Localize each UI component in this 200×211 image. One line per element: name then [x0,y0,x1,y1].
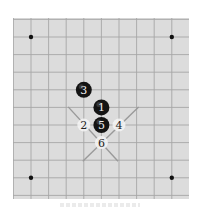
go-board: 123456 [13,18,189,199]
star-point [29,176,33,180]
stone-white-2: 2 [77,119,90,133]
move-number-label: 1 [98,101,105,114]
diagram-caption [60,203,140,207]
stone-black-5: 5 [93,117,109,133]
star-point [170,35,174,39]
stone-black-3: 3 [76,82,92,98]
star-point [170,176,174,180]
star-point [29,35,33,39]
go-board-canvas: 123456 [13,18,189,199]
move-number-label: 2 [80,119,87,132]
move-number-label: 4 [116,119,123,132]
move-number-label: 3 [80,84,87,97]
move-number-label: 6 [98,137,105,150]
stone-black-1: 1 [93,99,109,115]
move-number-label: 5 [98,119,105,132]
